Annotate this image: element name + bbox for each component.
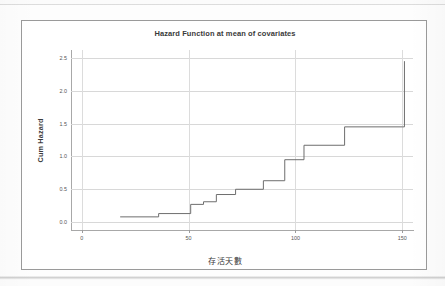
scan-artifact-top — [0, 0, 445, 7]
y-tick-label: 2.0 — [60, 88, 68, 94]
x-tick-label: 50 — [186, 235, 192, 241]
y-tick-label: 2.5 — [60, 55, 68, 61]
x-tick-label: 100 — [291, 235, 300, 241]
chart-frame: Hazard Function at mean of covariates Cu… — [21, 20, 427, 270]
x-tick-label: 0 — [80, 235, 83, 241]
y-tick-label: 1.5 — [60, 121, 68, 127]
scan-artifact-bottom — [0, 272, 445, 286]
x-tick-mark — [402, 230, 403, 233]
x-tick-mark — [82, 230, 83, 233]
y-tick-label: 0.0 — [60, 219, 68, 225]
cumulative-hazard-step-curve — [71, 50, 413, 230]
y-tick-label: 0.5 — [60, 186, 68, 192]
plot-area: 0.00.51.01.52.02.5 050100150 — [71, 50, 413, 230]
y-axis-label: Cum Hazard — [34, 50, 48, 230]
y-axis-label-text: Cum Hazard — [37, 118, 46, 162]
x-axis-line — [71, 230, 414, 231]
x-axis-label: 存活天數 — [22, 255, 428, 266]
chart-title: Hazard Function at mean of covariates — [22, 29, 428, 38]
step-line-path — [120, 61, 404, 217]
x-tick-mark — [295, 230, 296, 233]
y-tick-label: 1.0 — [60, 153, 68, 159]
x-tick-label: 150 — [398, 235, 407, 241]
x-tick-mark — [189, 230, 190, 233]
